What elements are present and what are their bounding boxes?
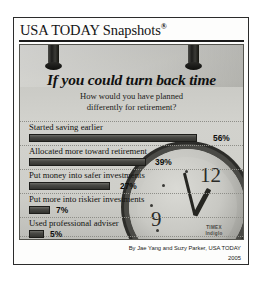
bar-fill bbox=[29, 182, 110, 190]
chart-subhead-line2: differently for retirement? bbox=[20, 102, 243, 113]
bar-value: 56% bbox=[213, 133, 230, 143]
bar-track bbox=[29, 134, 209, 142]
bar-label: Allocated more toward retirement bbox=[29, 146, 147, 156]
bar-row: Put more into riskier investments 7% bbox=[20, 193, 243, 217]
masthead-title: USA TODAY Snapshots® bbox=[20, 22, 167, 39]
bar-label: Started saving earlier bbox=[29, 122, 103, 132]
registered-trademark-icon: ® bbox=[161, 22, 167, 31]
peg-right-icon bbox=[188, 44, 199, 67]
snapshot-page: USA TODAY Snapshots® 12 9 bbox=[0, 0, 263, 283]
byline: By Jae Yang and Suzy Parker, USA TODAY 2… bbox=[129, 244, 241, 264]
note-text: Note: Multiple responses allowed bbox=[29, 237, 169, 240]
bar-fill bbox=[29, 158, 146, 166]
bar-label: Put more into riskier investments bbox=[29, 194, 144, 204]
bar-row: Started saving earlier 56% bbox=[20, 121, 243, 145]
chart-subhead: How would you have planned differently f… bbox=[20, 91, 243, 114]
masthead: USA TODAY Snapshots® bbox=[19, 21, 244, 42]
bar-row: Allocated more toward retirement 39% bbox=[20, 145, 243, 169]
bar-fill bbox=[29, 206, 50, 214]
byline-year: 2005 bbox=[129, 254, 241, 264]
bar-chart: Started saving earlier 56% Allocated mor… bbox=[20, 121, 243, 240]
chart-panel: 12 9 TIMEX Indiglo bbox=[19, 44, 244, 240]
bar-track bbox=[29, 182, 209, 190]
figure-frame: USA TODAY Snapshots® 12 9 bbox=[13, 17, 249, 265]
bar-value: 27% bbox=[120, 181, 137, 191]
peg-left-icon bbox=[48, 44, 59, 67]
bar-track bbox=[29, 158, 209, 166]
notes-block: Note: Multiple responses allowed Source:… bbox=[29, 237, 169, 240]
masthead-title-text: USA TODAY Snapshots bbox=[20, 22, 161, 38]
bar-row: Put money into safer investments 27% bbox=[20, 169, 243, 193]
bar-value: 7% bbox=[56, 205, 68, 215]
bar-fill bbox=[29, 134, 197, 142]
chart-headline: If you could turn back time bbox=[20, 71, 243, 89]
chart-subhead-line1: How would you have planned bbox=[20, 91, 243, 102]
bar-label: Put money into safer investments bbox=[29, 170, 145, 180]
byline-authors: By Jae Yang and Suzy Parker, USA TODAY bbox=[129, 244, 241, 254]
bar-label: Used professional adviser bbox=[29, 218, 119, 228]
bar-value: 39% bbox=[155, 157, 172, 167]
